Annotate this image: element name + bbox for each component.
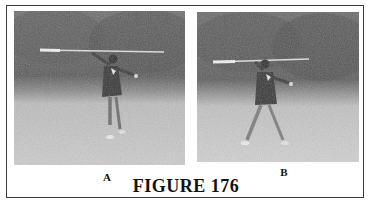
photo-a-image [14,11,185,165]
figure-caption: FIGURE 176 [0,176,372,197]
photo-panel-a [14,11,185,165]
photo-panel-b [197,12,359,162]
photo-b-image [197,12,359,162]
